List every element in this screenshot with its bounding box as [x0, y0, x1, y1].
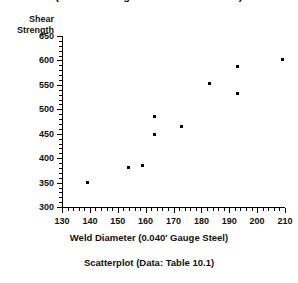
y-tick-major [57, 109, 62, 110]
x-axis-title: Weld Diameter (0.040ʹ Gauge Steel) [0, 232, 298, 243]
x-tick-minor [151, 208, 152, 211]
y-tick-minor [59, 148, 62, 149]
data-point [180, 125, 183, 128]
y-tick-minor [59, 153, 62, 154]
x-tick-minor [213, 208, 214, 211]
y-tick-minor [59, 100, 62, 101]
y-tick-minor [59, 178, 62, 179]
x-tick-minor [224, 208, 225, 211]
x-tick-minor [112, 208, 113, 211]
y-tick-minor [59, 51, 62, 52]
y-tick-minor [59, 197, 62, 198]
y-tick-major [57, 134, 62, 135]
y-tick-label: 650 [14, 31, 54, 41]
x-tick-major [285, 208, 286, 213]
figure-caption: Scatterplot (Data: Table 10.1) [0, 257, 298, 268]
y-tick-label: 300 [14, 202, 54, 212]
y-tick-minor [59, 114, 62, 115]
x-tick-label: 210 [265, 216, 298, 226]
y-tick-minor [59, 90, 62, 91]
data-point [153, 115, 156, 118]
data-point [236, 65, 239, 68]
y-tick-label: 600 [14, 55, 54, 65]
data-point [127, 166, 130, 169]
y-axis-title-line1: Shear [0, 14, 54, 25]
x-tick-major [229, 208, 230, 213]
x-tick-minor [279, 208, 280, 211]
x-tick-minor [95, 208, 96, 211]
data-point [281, 58, 284, 61]
y-tick-minor [59, 41, 62, 42]
x-tick-minor [185, 208, 186, 211]
data-point [153, 133, 156, 136]
y-tick-minor [59, 119, 62, 120]
y-tick-label: 350 [14, 178, 54, 188]
x-tick-minor [218, 208, 219, 211]
y-tick-label: 400 [14, 153, 54, 163]
x-tick-major [90, 208, 91, 213]
x-tick-minor [68, 208, 69, 211]
y-tick-major [57, 158, 62, 159]
x-tick-minor [101, 208, 102, 211]
y-tick-major [57, 85, 62, 86]
y-tick-minor [59, 65, 62, 66]
y-tick-minor [59, 144, 62, 145]
x-tick-minor [196, 208, 197, 211]
x-tick-minor [79, 208, 80, 211]
y-tick-minor [59, 168, 62, 169]
figure-title-text: (Shear Strength vs Weld Diameter) [0, 0, 298, 2]
x-tick-minor [135, 208, 136, 211]
y-tick-minor [59, 56, 62, 57]
x-tick-minor [268, 208, 269, 211]
x-tick-minor [157, 208, 158, 211]
y-tick-major [57, 60, 62, 61]
y-tick-minor [59, 104, 62, 105]
x-tick-minor [129, 208, 130, 211]
y-tick-minor [59, 173, 62, 174]
x-tick-major [118, 208, 119, 213]
y-tick-minor [59, 70, 62, 71]
data-point [208, 82, 211, 85]
y-tick-major [57, 183, 62, 184]
x-tick-minor [263, 208, 264, 211]
y-tick-minor [59, 46, 62, 47]
y-tick-minor [59, 163, 62, 164]
x-tick-minor [140, 208, 141, 211]
data-point [236, 92, 239, 95]
x-tick-minor [107, 208, 108, 211]
x-tick-minor [246, 208, 247, 211]
x-tick-minor [274, 208, 275, 211]
y-axis-line [62, 36, 63, 208]
x-tick-minor [73, 208, 74, 211]
y-tick-minor [59, 75, 62, 76]
y-tick-label: 450 [14, 129, 54, 139]
y-tick-label: 550 [14, 80, 54, 90]
x-tick-major [201, 208, 202, 213]
x-tick-minor [240, 208, 241, 211]
y-tick-minor [59, 80, 62, 81]
x-tick-minor [168, 208, 169, 211]
x-tick-major [146, 208, 147, 213]
x-tick-minor [162, 208, 163, 211]
x-tick-minor [235, 208, 236, 211]
y-tick-minor [59, 202, 62, 203]
x-tick-major [174, 208, 175, 213]
y-tick-minor [59, 192, 62, 193]
y-tick-minor [59, 188, 62, 189]
x-tick-minor [252, 208, 253, 211]
data-point [141, 164, 144, 167]
x-tick-minor [207, 208, 208, 211]
x-tick-major [257, 208, 258, 213]
y-tick-minor [59, 129, 62, 130]
y-tick-minor [59, 95, 62, 96]
x-tick-minor [179, 208, 180, 211]
x-tick-minor [84, 208, 85, 211]
x-tick-major [62, 208, 63, 213]
x-tick-minor [190, 208, 191, 211]
y-tick-minor [59, 124, 62, 125]
x-tick-minor [123, 208, 124, 211]
scatterplot-figure: (Shear Strength vs Weld Diameter) Shear … [0, 0, 298, 283]
data-point [86, 181, 89, 184]
y-tick-minor [59, 139, 62, 140]
figure-title-cropped: (Shear Strength vs Weld Diameter) [0, 0, 298, 9]
